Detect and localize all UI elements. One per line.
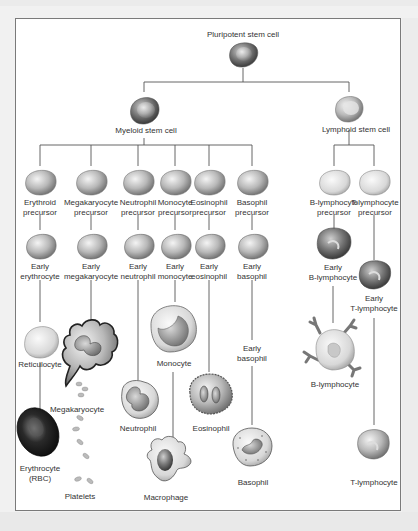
neutrophil-icon xyxy=(122,380,159,418)
early-t-lymphocyte-icon xyxy=(359,261,390,289)
early-eosinophil-icon xyxy=(196,234,226,259)
label-basophil-precursor: Basophilprecursor xyxy=(235,198,269,218)
early-monocyte-icon xyxy=(162,234,192,259)
macrophage-icon xyxy=(147,436,191,481)
basophil-precursor-icon xyxy=(238,170,269,195)
megakaryocyte-precursor-icon xyxy=(77,170,108,195)
label-monocyte: Monocyte xyxy=(157,359,192,369)
precursor-cells xyxy=(26,170,391,195)
label-neutrophil: Neutrophil xyxy=(120,424,156,434)
label-early-basophil-2: Earlybasophil xyxy=(237,344,267,364)
label-myeloid-stem-cell: Myeloid stem cell xyxy=(115,126,176,136)
eosinophil-precursor-icon xyxy=(195,170,226,195)
b-lymphocyte-icon xyxy=(304,318,360,376)
label-early-neutrophil: Earlyneutrophil xyxy=(120,262,155,282)
label-early-megakaryocyte: Earlymegakaryocyte xyxy=(64,262,118,282)
mature-cells xyxy=(9,306,389,485)
reticulocyte-icon xyxy=(25,327,59,358)
label-megakaryocyte: Megakaryocyte xyxy=(50,405,104,415)
label-early-monocyte: Earlymonocyte xyxy=(158,262,193,282)
early-neutrophil-icon xyxy=(125,234,155,259)
basophil-icon xyxy=(233,428,272,466)
t-lymphocyte-precursor-icon xyxy=(360,170,391,195)
pluripotent-stem-cell-icon xyxy=(230,43,258,67)
label-monocyte-precursor: Monocyteprecursor xyxy=(158,198,193,218)
label-reticulocyte: Reticulocyte xyxy=(18,360,62,370)
neutrophil-precursor-icon xyxy=(124,170,155,195)
label-neutrophil-precursor: Neutrophilprecursor xyxy=(120,198,156,218)
label-erythrocyte-rbc: Erythrocyte(RBC) xyxy=(20,464,60,484)
label-early-t-lymphocyte: EarlyT-lymphocyte xyxy=(350,294,398,314)
label-erythroid-precursor: Erythroidprecursor xyxy=(23,198,57,218)
label-basophil: Basophil xyxy=(238,478,269,488)
early-erythrocyte-icon xyxy=(27,234,57,259)
megakaryocyte-icon xyxy=(63,320,118,386)
label-t-lymphocyte-precursor: T-lymphocyteprecursor xyxy=(351,198,399,218)
label-eosinophil: Eosinophil xyxy=(193,424,230,434)
early-megakaryocyte-icon xyxy=(78,234,108,259)
label-platelets: Platelets xyxy=(65,492,96,502)
label-early-b-lymphocyte: EarlyB-lymphocyte xyxy=(309,263,357,283)
erythroid-precursor-icon xyxy=(26,170,57,195)
monocyte-icon xyxy=(151,306,196,352)
label-early-eosinophil: Earlyeosinophil xyxy=(191,262,227,282)
label-megakaryocyte-precursor: Megakaryocyteprecursor xyxy=(64,198,118,218)
early-basophil-icon xyxy=(239,234,269,259)
monocyte-precursor-icon xyxy=(161,170,192,195)
label-eosinophil-precursor: Eosinophilprecursor xyxy=(191,198,228,218)
label-early-basophil: Earlybasophil xyxy=(237,262,267,282)
b-lymphocyte-precursor-icon xyxy=(320,170,351,195)
label-t-lymphocyte: T-lymphocyte xyxy=(350,478,398,488)
label-b-lymphocyte: B-lymphocyte xyxy=(311,380,359,390)
early-b-lymphocyte-icon xyxy=(317,228,351,259)
label-pluripotent-stem-cell: Pluripotent stem cell xyxy=(207,30,279,40)
eosinophil-icon xyxy=(190,374,233,414)
label-early-erythrocyte: Earlyerythrocyte xyxy=(20,262,60,282)
myeloid-stem-cell-icon xyxy=(131,98,160,124)
t-lymphocyte-icon xyxy=(358,430,390,459)
lymphoid-stem-cell-icon xyxy=(336,97,364,122)
label-macrophage: Macrophage xyxy=(144,493,188,503)
label-lymphoid-stem-cell: Lymphoid stem cell xyxy=(322,125,390,135)
platelets-icon xyxy=(72,382,94,485)
